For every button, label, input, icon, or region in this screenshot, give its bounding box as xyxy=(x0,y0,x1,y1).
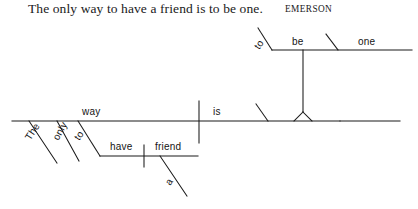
diagram-lines xyxy=(0,0,418,209)
predicate-nominative-slant xyxy=(326,34,338,50)
article-a-diagonal xyxy=(160,156,187,196)
linking-verb-slant xyxy=(256,104,268,121)
label-subject-way: way xyxy=(82,106,100,117)
label-infinitive-verb-have: have xyxy=(110,141,133,152)
sentence-diagram-page: The only way to have a friend is to be o… xyxy=(0,0,418,209)
label-predicate-nominative: one xyxy=(358,36,375,47)
label-main-verb-is: is xyxy=(213,106,221,117)
label-infinitive-object-friend: friend xyxy=(155,141,181,152)
pedestal-left-leg xyxy=(294,112,303,121)
label-complement-verb: be xyxy=(292,36,304,47)
pedestal-right-leg xyxy=(303,112,312,121)
